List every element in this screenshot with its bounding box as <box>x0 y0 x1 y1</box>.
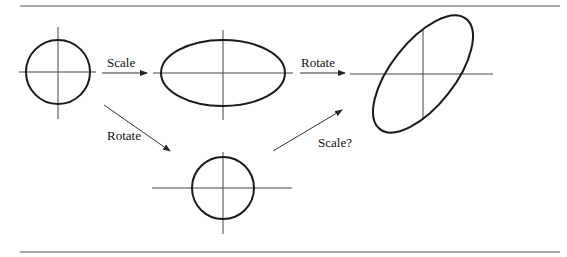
transform-diagram: Scale Rotate Rotate Scale? <box>0 0 567 257</box>
scale-question-label: Scale? <box>318 135 352 150</box>
rotate-arrow-top: Rotate <box>300 55 345 73</box>
rotated-circle <box>152 152 292 234</box>
scale-label: Scale <box>107 55 135 70</box>
original-circle <box>19 27 96 119</box>
rotate-arrow-diag: Rotate <box>104 105 170 151</box>
rotate-label-diag: Rotate <box>107 128 141 143</box>
rotated-ellipse <box>350 0 493 149</box>
scaled-ellipse <box>153 30 293 120</box>
rotate-label-top: Rotate <box>301 55 335 70</box>
scale-arrow: Scale <box>102 55 147 73</box>
scale-question-arrow: Scale? <box>273 110 352 151</box>
